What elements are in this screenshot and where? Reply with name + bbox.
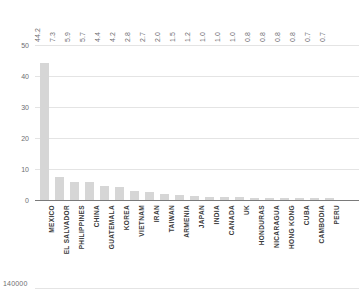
- bar[interactable]: [70, 182, 79, 200]
- bar-value-label: 0.7: [323, 0, 337, 42]
- bar-chart: 44.27.35.95.74.44.22.82.72.01.51.21.01.0…: [0, 0, 363, 293]
- axis-baseline: [35, 200, 359, 201]
- x-axis-category-label: VIETNAM: [128, 205, 142, 271]
- y-axis-tick-label: 0: [25, 197, 29, 204]
- x-axis-category-label: GUATEMALA: [98, 205, 112, 271]
- bar-slot: [173, 45, 187, 200]
- bar-slot: [98, 45, 112, 200]
- bar-slot: [278, 45, 292, 200]
- x-axis-category-label: HONDURAS: [248, 205, 262, 271]
- bar[interactable]: [145, 192, 154, 200]
- x-axis-category-label: EL SALVADOR: [53, 205, 67, 271]
- category-label-row: MEXICOEL SALVADORPHILIPPINESCHINAGUATEMA…: [35, 205, 359, 271]
- chart-footer: 140000: [0, 278, 363, 293]
- bar-slot: [38, 45, 52, 200]
- footer-value: 140000: [3, 278, 28, 289]
- x-axis-category-label: UK: [233, 205, 247, 271]
- bar-slot: [263, 45, 277, 200]
- bar-slot: [128, 45, 142, 200]
- bar[interactable]: [130, 191, 139, 200]
- bar-slot: [83, 45, 97, 200]
- y-axis-tick-label: 40: [21, 73, 29, 80]
- bar-slot: [293, 45, 307, 200]
- bar[interactable]: [100, 186, 109, 200]
- bar-slot: [203, 45, 217, 200]
- y-axis-tick-label: 50: [21, 42, 29, 49]
- x-axis-category-label: INDIA: [203, 205, 217, 271]
- x-axis-category-label: HONG KONG: [278, 205, 292, 271]
- bar-slot: [248, 45, 262, 200]
- bar-slot: [218, 45, 232, 200]
- x-axis-category-label: CANADA: [218, 205, 232, 271]
- bar-slot: [158, 45, 172, 200]
- x-axis-category-label: TAIWAN: [158, 205, 172, 271]
- value-label-row: 44.27.35.95.74.44.22.82.72.01.51.21.01.0…: [35, 0, 359, 42]
- x-axis-category-label: CHINA: [83, 205, 97, 271]
- bar[interactable]: [55, 177, 64, 200]
- x-axis-category-label: IRAN: [143, 205, 157, 271]
- bar-slot: [113, 45, 127, 200]
- bar[interactable]: [115, 187, 124, 200]
- bar[interactable]: [40, 63, 49, 200]
- x-axis-category-label: KOREA: [113, 205, 127, 271]
- x-axis-category-label: MEXICO: [38, 205, 52, 271]
- y-axis-tick-label: 10: [21, 166, 29, 173]
- y-axis-tick-label: 20: [21, 135, 29, 142]
- plot-area: 01020304050: [35, 45, 359, 201]
- x-axis-category-label: CUBA: [293, 205, 307, 271]
- x-axis-category-label: PERU: [323, 205, 337, 271]
- y-axis-tick-label: 30: [21, 104, 29, 111]
- bar-slot: [233, 45, 247, 200]
- bar-slot: [53, 45, 67, 200]
- footer-divider: [35, 288, 359, 289]
- bar[interactable]: [85, 182, 94, 200]
- bar-slot: [143, 45, 157, 200]
- bar-slot: [323, 45, 337, 200]
- bar-slot: [188, 45, 202, 200]
- x-axis-category-label: NICARAGUA: [263, 205, 277, 271]
- x-axis-category-label: PHILIPPINES: [68, 205, 82, 271]
- x-axis-category-label: JAPAN: [188, 205, 202, 271]
- bar-slot: [308, 45, 322, 200]
- x-axis-category-label: ARMENIA: [173, 205, 187, 271]
- x-axis-category-label: CAMBODIA: [308, 205, 322, 271]
- bar-slot: [68, 45, 82, 200]
- bar-series: [35, 45, 359, 200]
